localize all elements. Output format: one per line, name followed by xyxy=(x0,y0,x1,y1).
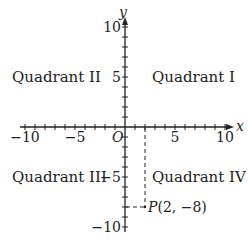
x-tick-label: −10 xyxy=(10,129,40,145)
point-name: P xyxy=(147,199,158,215)
quadrant-3-label: Quadrant III xyxy=(12,168,107,186)
x-tick-label: 10 xyxy=(216,129,234,145)
origin-label: O xyxy=(112,129,124,145)
x-tick-label: 5 xyxy=(171,129,180,145)
point-coords: (2, −8) xyxy=(157,199,206,215)
y-tick-label: 10 xyxy=(103,19,121,35)
quadrant-2-label: Quadrant II xyxy=(12,68,101,86)
quadrant-4-label: Quadrant IV xyxy=(152,168,247,186)
point-marker xyxy=(144,206,146,208)
y-axis-label: y xyxy=(118,4,128,20)
x-tick-label: −5 xyxy=(65,129,86,145)
y-tick-label: 5 xyxy=(112,69,121,85)
coordinate-plane: x y O −10 −5 5 10 10 5 −5 −10 Quadrant I… xyxy=(0,0,248,244)
point-label: P(2, −8) xyxy=(147,199,207,215)
y-tick-label: −10 xyxy=(91,219,121,235)
quadrant-1-label: Quadrant I xyxy=(152,68,235,86)
x-axis-label: x xyxy=(236,118,244,134)
